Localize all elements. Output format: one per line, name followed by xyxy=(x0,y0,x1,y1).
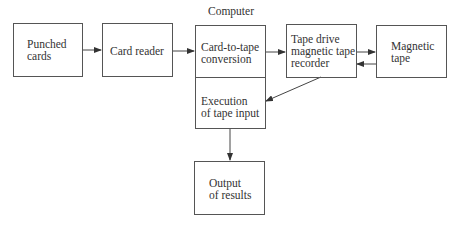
node-label: Punched cards xyxy=(27,38,67,62)
arrow-tapedrive-to-execution xyxy=(266,77,321,101)
node-computer-group: Card-to-tape conversion Execution of tap… xyxy=(195,25,266,129)
node-output: Output of results xyxy=(194,161,265,215)
node-card-to-tape: Card-to-tape conversion xyxy=(196,26,265,78)
node-tape-drive: Tape drive magnetic tape recorder xyxy=(286,24,357,78)
node-label: Card reader xyxy=(110,45,164,57)
node-label: Execution of tape input xyxy=(201,95,259,119)
node-label: Output of results xyxy=(209,177,251,201)
node-execution: Execution of tape input xyxy=(196,78,265,128)
node-label: Magnetic tape xyxy=(391,40,434,64)
node-card-reader: Card reader xyxy=(102,23,173,77)
node-magnetic-tape: Magnetic tape xyxy=(376,25,447,78)
computer-label: Computer xyxy=(208,5,254,17)
node-label: Tape drive magnetic tape recorder xyxy=(291,33,355,69)
node-punched-cards: Punched cards xyxy=(13,23,83,77)
node-label: Card-to-tape conversion xyxy=(201,41,259,65)
